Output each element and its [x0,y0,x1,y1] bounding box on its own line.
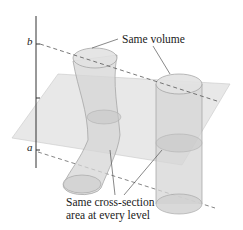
axis-label-b: b [27,35,33,47]
right-circular-cylinder [156,74,202,214]
same-volume-label: Same volume [122,33,185,46]
bottom-face [63,175,101,193]
axis-label-a: a [27,141,33,153]
cross-section [156,134,202,152]
cross-section-line-1: Same cross-section [66,196,154,209]
cavalieri-diagram: b a Same volume Same cross-section area … [0,0,243,230]
top-face [73,48,117,68]
leader-volume-right [153,46,170,74]
cross-section-line-2: area at every level [66,209,154,222]
leader-volume-left [92,39,118,48]
cross-section [87,110,121,124]
bottom-face [156,194,202,214]
cross-section-annotation: Same cross-section area at every level [66,196,154,222]
